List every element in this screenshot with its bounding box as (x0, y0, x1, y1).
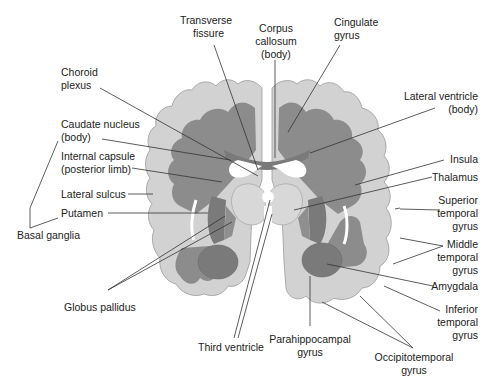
label-corpus-callosum: Corpus callosum (body) (248, 22, 304, 61)
label-globus-pallidus: Globus pallidus (64, 301, 136, 314)
label-cingulate-gyrus: Cingulate gyrus (334, 16, 378, 42)
label-superior-temporal-gyrus: Superior temporal gyrus (410, 194, 478, 233)
left-amygdala (198, 245, 238, 279)
label-line: Occipitotemporal (366, 351, 462, 364)
brain-coronal-diagram: Transverse fissure Corpus callosum (body… (0, 0, 492, 382)
label-line: Middle (410, 238, 478, 251)
label-line: temporal (410, 316, 478, 329)
label-line: gyrus (266, 346, 354, 359)
label-internal-capsule: Internal capsule (posterior limb) (61, 150, 135, 176)
label-parahippocampal-gyrus: Parahippocampal gyrus (266, 333, 354, 359)
right-amygdala (302, 243, 342, 277)
label-line: Inferior (410, 303, 478, 316)
label-line: Corpus (248, 22, 304, 35)
label-occipitotemporal-gyrus: Occipitotemporal gyrus (366, 351, 462, 377)
label-line: plexus (61, 79, 98, 92)
label-line: gyrus (410, 220, 478, 233)
label-lateral-sulcus: Lateral sulcus (61, 188, 126, 201)
label-amygdala: Amygdala (410, 280, 478, 293)
label-line: Caudate nucleus (61, 118, 140, 131)
label-line: (body) (61, 131, 140, 144)
label-line: temporal (410, 207, 478, 220)
label-inferior-temporal-gyrus: Inferior temporal gyrus (410, 303, 478, 342)
label-line: gyrus (410, 329, 478, 342)
label-line: Choroid (61, 66, 98, 79)
label-line: (body) (248, 48, 304, 61)
label-line: gyrus (410, 264, 478, 277)
label-line: callosum (248, 35, 304, 48)
label-line: Transverse (180, 14, 224, 27)
label-thalamus: Thalamus (410, 171, 478, 184)
label-line: (body) (400, 103, 478, 116)
label-lateral-ventricle: Lateral ventricle (body) (400, 90, 478, 116)
label-line: gyrus (334, 29, 378, 42)
label-choroid-plexus: Choroid plexus (61, 66, 98, 92)
label-line: Lateral ventricle (400, 90, 478, 103)
third-ventricle-shape (262, 191, 274, 203)
label-line: Parahippocampal (266, 333, 354, 346)
label-line: (posterior limb) (61, 163, 135, 176)
label-line: fissure (180, 27, 224, 40)
label-middle-temporal-gyrus: Middle temporal gyrus (410, 238, 478, 277)
label-third-ventricle: Third ventricle (198, 341, 264, 354)
label-basal-ganglia: Basal ganglia (17, 229, 80, 242)
label-line: temporal (410, 251, 478, 264)
label-transverse-fissure: Transverse fissure (180, 14, 224, 40)
label-caudate-nucleus: Caudate nucleus (body) (61, 118, 140, 144)
label-line: gyrus (366, 364, 462, 377)
label-insula: Insula (410, 153, 478, 166)
label-putamen: Putamen (61, 207, 103, 220)
label-line: Internal capsule (61, 150, 135, 163)
label-line: Superior (410, 194, 478, 207)
label-line: Cingulate (334, 16, 378, 29)
